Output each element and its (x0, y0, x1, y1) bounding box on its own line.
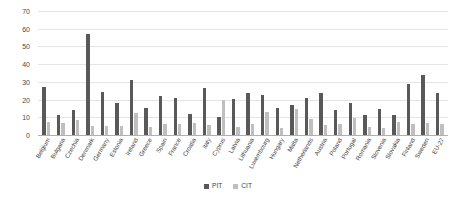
x-axis-tick-label: Malta (287, 137, 300, 153)
bar-groups (38, 11, 448, 135)
x-axis-tick-label: Greece (138, 137, 154, 158)
bar-cit (61, 123, 64, 135)
x-axis-tick: France (170, 136, 185, 180)
bar-group (156, 11, 171, 135)
bar-cit (295, 109, 298, 135)
bar-cit (134, 113, 137, 135)
bar-cit (382, 128, 385, 135)
bar-cit (207, 125, 210, 135)
bar-cit (47, 122, 50, 135)
bar-pit (378, 109, 381, 135)
y-axis-tick-label: 30 (22, 78, 30, 85)
bar-pit (246, 93, 249, 136)
x-axis-tick-label: Italy (201, 137, 212, 150)
bar-pit (174, 98, 177, 135)
bar-group (83, 11, 98, 135)
y-axis-tick-label: 60 (22, 25, 30, 32)
x-axis-tick-label: Croatia (182, 137, 197, 157)
bar-cit (353, 118, 356, 135)
bar-group (316, 11, 331, 135)
x-axis-tick: Austria (316, 136, 331, 180)
y-axis-tick-label: 10 (22, 114, 30, 121)
bar-group (54, 11, 69, 135)
bar-pit (86, 34, 89, 135)
x-axis-tick: Spain (156, 136, 171, 180)
legend-swatch-icon (204, 184, 209, 189)
bar-pit (57, 115, 60, 135)
x-axis-tick: Hungary (272, 136, 287, 180)
bar-group (214, 11, 229, 135)
legend-item-pit[interactable]: PIT (204, 183, 222, 190)
x-axis-tick: Ireland (126, 136, 141, 180)
plot-area (38, 11, 448, 135)
bar-group (272, 11, 287, 135)
bar-group (433, 11, 448, 135)
bar-group (287, 11, 302, 135)
x-axis-tick-label: EU-27 (431, 137, 445, 155)
bar-cit (236, 127, 239, 135)
bar-pit (407, 84, 410, 135)
x-axis-tick: Croatia (185, 136, 200, 180)
x-axis-tick: Estonia (112, 136, 127, 180)
bar-cit (222, 100, 225, 135)
legend-label: CIT (241, 183, 252, 190)
legend-item-cit[interactable]: CIT (233, 183, 252, 190)
bar-pit (101, 92, 104, 135)
bar-group (112, 11, 127, 135)
bar-group (345, 11, 360, 135)
bar-pit (261, 95, 264, 135)
bar-pit (363, 115, 366, 135)
x-axis-tick: EU-27 (433, 136, 448, 180)
bar-pit (217, 117, 220, 135)
bar-group (141, 11, 156, 135)
y-axis: 010203040506070 (0, 11, 34, 135)
bar-pit (144, 108, 147, 135)
bar-cit (265, 112, 268, 135)
bar-group (331, 11, 346, 135)
bar-pit (159, 96, 162, 135)
bar-pit (188, 114, 191, 135)
bar-pit (392, 115, 395, 135)
y-axis-tick-label: 50 (22, 43, 30, 50)
bar-group (418, 11, 433, 135)
x-axis-tick: Slovakia (389, 136, 404, 180)
x-axis-tick: Cyprus (214, 136, 229, 180)
bar-cit (338, 124, 341, 135)
x-axis-tick: Italy (199, 136, 214, 180)
bar-group (243, 11, 258, 135)
bar-group (97, 11, 112, 135)
bar-pit (334, 110, 337, 135)
bar-cit (440, 124, 443, 136)
bar-cit (251, 124, 254, 136)
bar-pit (130, 80, 133, 135)
bar-pit (319, 93, 322, 135)
bar-cit (120, 126, 123, 135)
bar-cit (368, 127, 371, 135)
bar-group (360, 11, 375, 135)
bar-group (170, 11, 185, 135)
bar-cit (163, 124, 166, 135)
bar-pit (42, 87, 45, 135)
y-axis-tick-label: 20 (22, 96, 30, 103)
bar-cit (178, 124, 181, 136)
bar-group (229, 11, 244, 135)
bar-group (389, 11, 404, 135)
bar-pit (436, 93, 439, 136)
bar-pit (290, 105, 293, 135)
y-axis-tick-label: 40 (22, 61, 30, 68)
x-axis: BelgiumBulgariaCzechiaDenmarkGermanyEsto… (38, 136, 448, 180)
bar-cit (193, 123, 196, 135)
x-axis-tick: Greece (141, 136, 156, 180)
bar-cit (411, 124, 414, 136)
bar-cit (324, 125, 327, 135)
bar-pit (349, 103, 352, 135)
bar-group (39, 11, 54, 135)
bar-group (258, 11, 273, 135)
bar-pit (305, 98, 308, 135)
bar-pit (276, 108, 279, 135)
x-axis-tick-label: Estonia (109, 137, 125, 158)
bar-cit (76, 120, 79, 135)
y-axis-tick-label: 0 (26, 132, 30, 139)
bar-pit (72, 110, 75, 135)
chart-legend: PITCIT (0, 183, 456, 190)
